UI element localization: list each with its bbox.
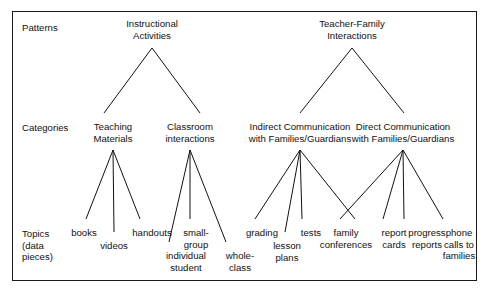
category-node-teaching-materials: Teaching Materials xyxy=(94,121,133,144)
topic-node-phone-calls-to-families: phone calls to families xyxy=(443,227,476,262)
topic-node-handouts: handouts xyxy=(132,227,171,239)
topic-node-whole-class: whole- class xyxy=(226,250,254,273)
topic-node-individual-student: individual student xyxy=(166,250,206,273)
diagram-page: Patterns Categories Topics (data pieces)… xyxy=(0,0,491,296)
topic-node-books: books xyxy=(71,227,97,239)
topic-node-grading: grading xyxy=(246,227,278,239)
topic-node-progress-reports: progress reports xyxy=(408,227,445,250)
pattern-node-instructional-activities: Instructional Activities xyxy=(126,18,178,41)
category-node-indirect-communication: Indirect Communication with Families/Gua… xyxy=(249,121,351,144)
topic-node-family-conferences: family conferences xyxy=(320,227,372,250)
category-node-direct-communication: Direct Communication with Families/Guard… xyxy=(352,121,454,144)
category-node-classroom-interactions: Classroom interactions xyxy=(165,121,214,144)
topic-node-small-group: small- group xyxy=(183,227,209,250)
diagram-frame xyxy=(12,11,477,281)
pattern-node-teacher-family-interactions: Teacher-Family Interactions xyxy=(319,18,385,41)
topic-node-videos: videos xyxy=(100,240,128,252)
topic-node-tests: tests xyxy=(301,227,321,239)
row-label-topics: Topics (data pieces) xyxy=(22,228,53,263)
topic-node-report-cards: report cards xyxy=(381,227,406,250)
row-label-categories: Categories xyxy=(22,122,68,134)
row-label-patterns: Patterns xyxy=(22,22,58,34)
topic-node-lesson-plans: lesson plans xyxy=(273,240,301,263)
